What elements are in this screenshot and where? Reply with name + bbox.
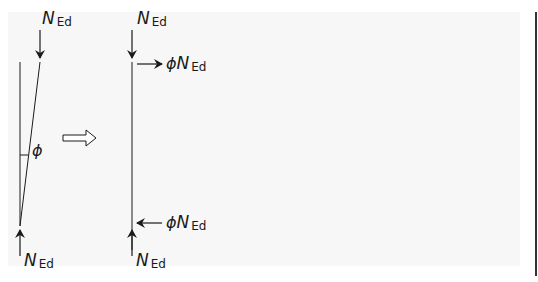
left-top-force-label: NEd [42,8,72,28]
sway-imperfection-diagram [0,0,538,282]
page-edge-rule [535,12,537,276]
transform-arrow-icon [63,130,96,146]
top-horizontal-force-label: ϕNEd [166,53,206,73]
left-bottom-force-label: NEd [24,250,54,270]
angle-label: ϕ [32,141,43,160]
right-top-force-label: NEd [137,8,167,28]
bottom-horizontal-force-label: ϕNEd [166,212,206,232]
right-bottom-force-label: NEd [136,250,166,270]
right-member [132,30,162,256]
